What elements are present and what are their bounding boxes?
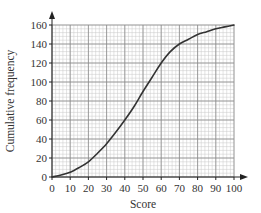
x-tick-label: 50 — [138, 182, 150, 194]
cumulative-frequency-chart: 020406080100120140160 010203040506070809… — [0, 0, 261, 213]
y-tick-label: 100 — [31, 76, 48, 88]
y-tick-label: 20 — [36, 152, 48, 164]
y-tick-label: 0 — [42, 171, 48, 183]
y-tick-label: 40 — [36, 133, 48, 145]
x-tick-label: 30 — [101, 182, 113, 194]
y-tick-label: 120 — [31, 57, 48, 69]
x-tick-label: 80 — [192, 182, 204, 194]
x-tick-labels: 0102030405060708090100 — [49, 177, 243, 194]
x-tick-label: 10 — [65, 182, 77, 194]
x-tick-label: 70 — [174, 182, 186, 194]
x-tick-label: 90 — [210, 182, 222, 194]
y-axis-label: Cumulative frequency — [4, 50, 17, 153]
y-tick-label: 160 — [31, 19, 48, 31]
x-axis-label: Score — [130, 198, 156, 210]
x-tick-label: 60 — [156, 182, 168, 194]
y-tick-label: 80 — [36, 95, 48, 107]
y-tick-label: 140 — [31, 38, 48, 50]
x-tick-label: 100 — [226, 182, 243, 194]
y-tick-label: 60 — [36, 114, 48, 126]
y-tick-labels: 020406080100120140160 — [31, 19, 53, 183]
x-tick-label: 0 — [49, 182, 55, 194]
x-tick-label: 20 — [83, 182, 95, 194]
x-tick-label: 40 — [119, 182, 131, 194]
